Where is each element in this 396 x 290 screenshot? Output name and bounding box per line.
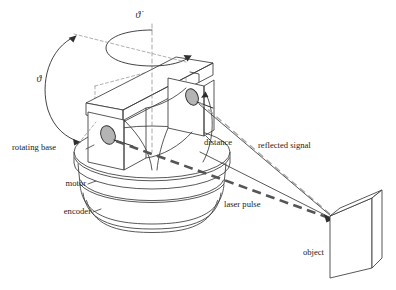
target-object — [330, 190, 382, 278]
label-distance: distance — [204, 137, 232, 147]
head-right-prong — [168, 78, 204, 136]
object-front-face — [330, 198, 372, 278]
sight-line-lower — [200, 152, 331, 218]
theta-rotation-symbol: ϑ̇ — [136, 9, 144, 20]
laser-scanner-diagram: ϑ̇ ϑ rotating base motor e — [0, 0, 396, 290]
label-reflected-signal: reflected signal — [258, 140, 311, 150]
label-motor: motor — [65, 178, 86, 188]
motor-leader — [88, 181, 96, 184]
label-laser-pulse: laser pulse — [224, 199, 261, 209]
object-side-face — [372, 190, 382, 268]
tilt-construction-upper — [74, 34, 186, 62]
theta-tilt-symbol: ϑ — [37, 73, 43, 84]
diagram-canvas: ϑ̇ ϑ rotating base motor e — [0, 0, 396, 290]
label-encoder: encoder — [64, 206, 91, 216]
tilt-angle-arc — [45, 36, 80, 142]
label-rotating-base: rotating base — [12, 142, 56, 152]
encoder-leader — [93, 209, 101, 212]
encoder-section — [80, 185, 224, 225]
encoder-inner-arc — [87, 201, 218, 233]
label-object: object — [303, 247, 325, 257]
